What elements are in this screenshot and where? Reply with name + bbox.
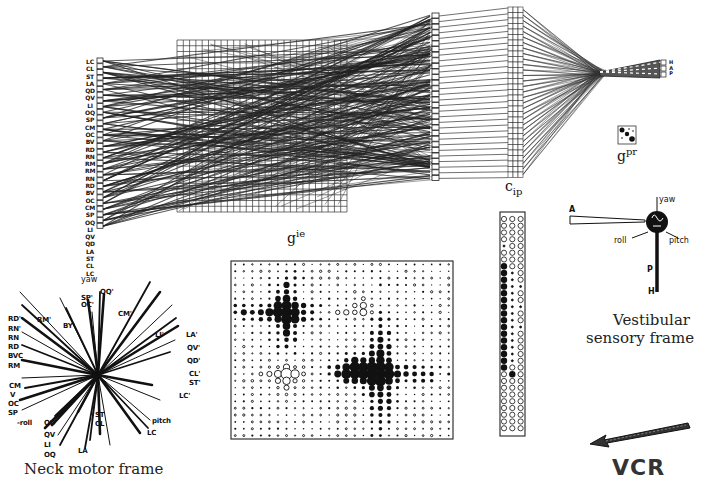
input-label: OC (85, 131, 95, 138)
input-label: ST (85, 73, 95, 80)
output-label: P (667, 71, 675, 77)
input-label: RM (85, 167, 95, 174)
input-label: QD (85, 87, 95, 94)
rotation-label-roll: roll (614, 236, 626, 245)
input-labels: LCCLSTLAQDQVLIOQSPCMOCBVRDRNRMRMRNRDBVOC… (85, 58, 95, 277)
neck-label: LI (44, 442, 51, 449)
rotation-label-pitch: pitch (669, 236, 689, 245)
input-label: CM (85, 204, 95, 211)
input-label: LI (85, 102, 95, 109)
neck-label: LI' (155, 332, 164, 339)
neck-label: LC (147, 430, 156, 437)
neck-label: QD (44, 420, 55, 427)
input-label: QV (85, 94, 95, 101)
neck-label: SP (8, 410, 18, 417)
input-label: OQ (85, 109, 95, 116)
neck-label: QD' (187, 358, 200, 365)
gpr-label: gpr (617, 146, 637, 164)
neck-label: LA' (186, 332, 197, 339)
neck-label: RD (8, 344, 19, 351)
vestibular-title: Vestibular sensory frame (592, 311, 694, 347)
neck-title: Neck motor frame (24, 460, 163, 478)
input-label: RM (85, 160, 95, 167)
neck-label: ST' (189, 380, 200, 387)
neck-label: -roll (17, 420, 32, 427)
neck-label: RM' (37, 317, 51, 324)
input-label: ST (85, 255, 95, 262)
rotation-label-yaw: yaw (659, 195, 675, 204)
neck-label: CL (95, 421, 104, 428)
neck-label: ST (95, 412, 104, 419)
neck-label: V (10, 392, 15, 399)
input-label: RD (85, 182, 95, 189)
input-label: RN (85, 175, 95, 182)
input-label: OQ (85, 219, 95, 226)
neck-label: QV (44, 432, 55, 439)
input-label: LI (85, 226, 95, 233)
neck-label: CM (9, 383, 21, 390)
network-diagram (0, 0, 704, 494)
neck-label: CL' (189, 371, 200, 378)
neck-label: BVC (8, 353, 23, 360)
input-label: LA (85, 80, 95, 87)
axis-label-a: A (569, 205, 575, 214)
axis-label-h: H (648, 287, 655, 296)
axis-label-p: P (647, 265, 653, 274)
neck-label: OQ' (100, 289, 113, 296)
neck-label: OQ (44, 452, 56, 459)
neck-label: pitch (152, 418, 171, 425)
vcr-label: VCR (612, 455, 665, 480)
cip-label: cip (505, 178, 522, 197)
input-label: OC (85, 197, 95, 204)
neck-label: BY' (63, 323, 75, 330)
input-label: QV (85, 233, 95, 240)
output-labels: HAP (667, 60, 675, 77)
neck-label: RD' (8, 316, 21, 323)
input-label: RD (85, 146, 95, 153)
input-label: BV (85, 189, 95, 196)
input-label: SP (85, 116, 95, 123)
input-label: BV (85, 138, 95, 145)
neck-label: RN (8, 335, 19, 342)
neck-label: QV' (187, 345, 200, 352)
input-label: LC (85, 58, 95, 65)
neck-yaw-label: yaw (81, 275, 97, 284)
neck-label: OC' (81, 302, 94, 309)
input-label: CL (85, 262, 95, 269)
input-label: RN (85, 153, 95, 160)
neck-label: LA (78, 448, 87, 455)
input-label: QD (85, 240, 95, 247)
input-label: LA (85, 248, 95, 255)
gie-label: gie (287, 228, 305, 246)
input-label: CM (85, 124, 95, 131)
neck-label: RM (8, 363, 20, 370)
input-label: CL (85, 65, 95, 72)
neck-label: CM' (118, 311, 132, 318)
input-label: SP (85, 211, 95, 218)
neck-label: LC' (179, 393, 190, 400)
neck-label: OC (8, 401, 19, 408)
neck-label: RN' (8, 326, 21, 333)
